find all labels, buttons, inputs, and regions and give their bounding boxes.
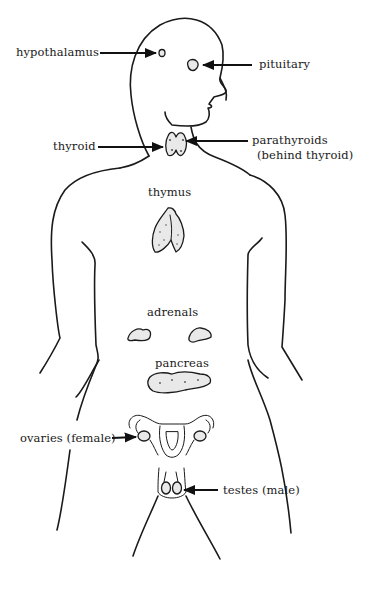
testes	[158, 468, 186, 498]
label-pancreas: pancreas	[155, 357, 209, 370]
body-outline	[40, 18, 302, 559]
label-thyroid: thyroid	[53, 140, 96, 153]
label-hypothalamus: hypothalamus	[16, 46, 99, 59]
thymus-gland	[152, 208, 184, 252]
label-pituitary: pituitary	[259, 58, 310, 71]
label-parathyroids: parathyroids	[252, 134, 328, 147]
label-parathyroids-note: (behind thyroid)	[257, 149, 353, 162]
label-testes: testes (male)	[223, 484, 300, 497]
adrenal-glands	[128, 328, 211, 342]
thyroid-gland	[166, 132, 187, 155]
endocrine-diagram	[0, 0, 366, 596]
ovaries-uterus	[129, 415, 214, 457]
hypothalamus-gland	[159, 50, 165, 57]
label-thymus: thymus	[148, 186, 191, 199]
label-ovaries: ovaries (female)	[20, 432, 116, 445]
pancreas-gland	[148, 372, 211, 393]
pituitary-gland	[188, 60, 198, 71]
label-adrenals: adrenals	[147, 306, 198, 319]
